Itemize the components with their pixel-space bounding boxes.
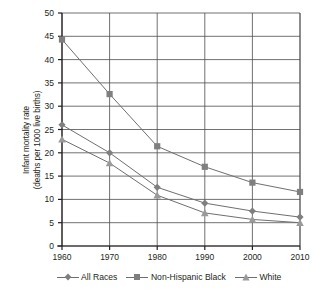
y-tick-label-15: 15 xyxy=(32,171,54,181)
legend-square-icon xyxy=(126,272,148,282)
data-point-all-races-1960 xyxy=(58,121,65,128)
data-point-all-races-1990 xyxy=(201,200,208,207)
data-point-all-races-1980 xyxy=(154,184,161,191)
legend-diamond-icon xyxy=(57,272,79,282)
x-tick-label-1960: 1960 xyxy=(42,252,82,262)
y-tick-label-0: 0 xyxy=(32,241,54,251)
legend-label: White xyxy=(259,272,281,282)
legend-item-non-hispanic-black[interactable]: Non-Hispanic Black xyxy=(126,272,226,282)
legend-label: All Races xyxy=(81,272,117,282)
data-point-non-hispanic-black-1980 xyxy=(154,143,160,149)
chart-legend: All RacesNon-Hispanic BlackWhite xyxy=(30,272,308,282)
series-line-non-hispanic-black xyxy=(62,40,300,192)
x-tick-label-1980: 1980 xyxy=(137,252,177,262)
y-tick-label-20: 20 xyxy=(32,148,54,158)
data-point-white-1970 xyxy=(106,159,114,166)
y-tick-label-40: 40 xyxy=(32,55,54,65)
y-tick-label-10: 10 xyxy=(32,194,54,204)
legend-triangle-icon xyxy=(235,272,257,282)
data-point-non-hispanic-black-1960 xyxy=(59,36,65,42)
y-tick-label-35: 35 xyxy=(32,78,54,88)
data-point-non-hispanic-black-1970 xyxy=(107,91,113,97)
data-point-non-hispanic-black-2000 xyxy=(249,180,255,186)
legend-item-white[interactable]: White xyxy=(235,272,281,282)
infant-mortality-line-chart: Infant mortality rate (deaths per 1000 l… xyxy=(0,0,313,295)
legend-label: Non-Hispanic Black xyxy=(151,272,226,282)
legend-item-all-races[interactable]: All Races xyxy=(57,272,118,282)
x-tick-label-1970: 1970 xyxy=(90,252,130,262)
x-tick-label-2000: 2000 xyxy=(232,252,272,262)
data-point-non-hispanic-black-2010 xyxy=(297,189,303,195)
series-line-all-races xyxy=(62,125,300,217)
y-tick-label-45: 45 xyxy=(32,31,54,41)
x-tick-label-2010: 2010 xyxy=(280,252,313,262)
y-tick-label-5: 5 xyxy=(32,218,54,228)
y-tick-label-30: 30 xyxy=(32,101,54,111)
x-tick-label-1990: 1990 xyxy=(185,252,225,262)
y-tick-label-25: 25 xyxy=(32,125,54,135)
y-tick-label-50: 50 xyxy=(32,8,54,18)
data-point-white-1990 xyxy=(201,209,209,216)
data-point-all-races-1970 xyxy=(106,149,113,156)
series-line-white xyxy=(62,139,300,222)
data-point-white-1980 xyxy=(153,191,161,198)
data-point-all-races-2000 xyxy=(249,207,256,214)
data-point-non-hispanic-black-1990 xyxy=(202,164,208,170)
data-point-white-1960 xyxy=(58,135,66,142)
